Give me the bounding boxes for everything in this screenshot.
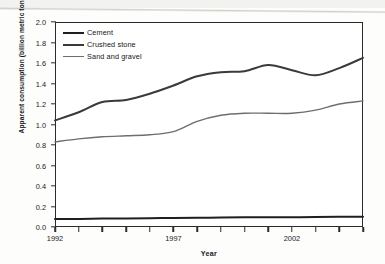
x-axis-tick-mark <box>291 227 293 232</box>
x-axis-tick-mark <box>102 227 104 232</box>
x-axis-tick-label: 1992 <box>47 234 63 243</box>
series-line-crushed-stone <box>55 58 363 121</box>
x-axis-ticks <box>55 227 363 233</box>
y-axis-tick-label: 2.0 <box>36 18 46 27</box>
legend-item-label: Sand and gravel <box>87 52 142 61</box>
chart-page: 2.01.81.61.41.21.00.80.60.40.20.0 Appare… <box>0 0 385 264</box>
series-line-sand-and-gravel <box>55 101 363 142</box>
legend-item: Crushed stone <box>63 39 173 50</box>
y-axis-tick-label: 1.0 <box>36 120 46 129</box>
y-axis-tick-label: 1.2 <box>36 100 46 109</box>
legend-line-swatch <box>63 56 84 57</box>
x-axis-tick-mark <box>220 227 222 232</box>
y-axis-tick-label: 0.0 <box>36 223 46 232</box>
y-axis-tick-label: 0.2 <box>36 202 46 211</box>
line-chart-figure: 2.01.81.61.41.21.00.80.60.40.20.0 Appare… <box>0 0 385 264</box>
x-axis-tick-mark <box>244 227 246 232</box>
y-axis-tick-label: 1.4 <box>36 79 46 88</box>
legend-item: Sand and gravel <box>63 51 173 62</box>
legend-line-swatch <box>63 44 84 46</box>
x-axis-tick-mark <box>267 227 269 232</box>
x-axis-tick-label: 2002 <box>284 234 300 243</box>
x-axis-tick-mark <box>339 227 341 232</box>
x-axis-tick-labels: 199219972002 <box>55 234 363 246</box>
series-line-cement <box>55 217 363 219</box>
y-axis-tick-label: 1.6 <box>36 59 46 68</box>
y-axis-tick-label: 0.8 <box>36 141 46 150</box>
y-axis-tick-label: 0.6 <box>36 161 46 170</box>
legend-item-label: Cement <box>87 28 113 37</box>
x-axis-tick-mark <box>149 227 151 232</box>
y-axis-tick-label: 1.8 <box>36 38 46 47</box>
x-axis-tick-label: 1997 <box>165 234 181 243</box>
x-axis-tick-mark <box>125 227 127 232</box>
x-axis-title: Year <box>55 249 363 258</box>
x-axis-tick-mark <box>362 227 364 232</box>
x-axis-tick-mark <box>196 227 198 232</box>
legend-item-label: Crushed stone <box>87 40 136 49</box>
y-axis-tick-labels: 2.01.81.61.41.21.00.80.60.40.20.0 <box>0 22 52 227</box>
x-axis-tick-mark <box>173 227 175 232</box>
legend-item: Cement <box>63 27 173 38</box>
x-axis-tick-mark <box>78 227 80 232</box>
legend-line-swatch <box>63 32 84 34</box>
x-axis-tick-mark <box>315 227 317 232</box>
y-axis-tick-label: 0.4 <box>36 182 46 191</box>
legend: CementCrushed stoneSand and gravel <box>63 27 173 63</box>
y-axis-title: Apparent consumption (billion metric ton… <box>18 0 25 148</box>
x-axis-tick-mark <box>54 227 56 232</box>
